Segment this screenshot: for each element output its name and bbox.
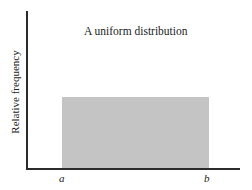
uniform-distribution-area (62, 97, 209, 168)
y-axis (26, 11, 28, 170)
chart-title: A uniform distribution (84, 25, 188, 37)
y-axis-label: Relative frequency (9, 50, 21, 133)
x-tick-label-b: b (204, 172, 210, 184)
x-tick-label-a: a (59, 172, 65, 184)
x-axis (26, 168, 240, 170)
